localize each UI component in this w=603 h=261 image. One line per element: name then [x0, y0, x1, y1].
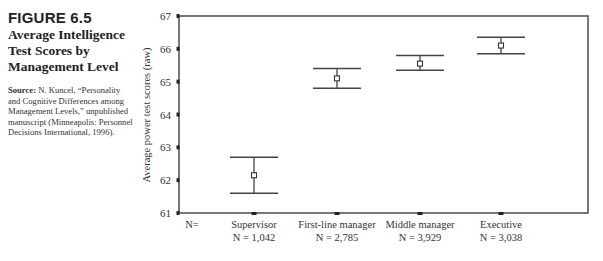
mean-marker — [418, 61, 423, 66]
x-tick-mark — [418, 212, 423, 215]
plot-border — [179, 16, 588, 213]
x-tick-mark — [499, 212, 504, 215]
error-bar-supervisor — [230, 157, 278, 193]
x-axis-labels: SupervisorN = 1,042First-line managerN =… — [231, 212, 522, 243]
plot-frame — [179, 16, 588, 213]
y-tick-label: 65 — [160, 76, 172, 88]
n-label: N= — [185, 219, 199, 230]
x-n-label: N = 1,042 — [233, 232, 275, 243]
x-n-label: N = 3,929 — [399, 232, 441, 243]
error-bar-executive — [477, 37, 525, 53]
y-axis-label: Average power test scores (raw) — [141, 47, 153, 183]
mean-marker — [499, 43, 504, 48]
y-tick-label: 62 — [160, 174, 171, 186]
y-tick-label: 66 — [160, 43, 172, 55]
x-category-label: Supervisor — [231, 219, 277, 230]
x-category-label: First-line manager — [298, 219, 376, 230]
y-tick-mark — [177, 211, 180, 215]
x-tick-mark — [335, 212, 340, 215]
x-category-label: Executive — [480, 219, 522, 230]
error-bar-first-line-manager — [313, 69, 361, 89]
x-category-label: Middle manager — [385, 219, 455, 230]
y-tick-label: 63 — [160, 141, 172, 153]
y-tick-mark — [177, 14, 180, 18]
x-tick-mark — [252, 212, 257, 215]
y-axis: 61626364656667 — [160, 10, 180, 219]
x-n-label: N = 2,785 — [316, 232, 358, 243]
y-tick-mark — [177, 113, 180, 117]
y-tick-mark — [177, 178, 180, 182]
error-bars — [230, 37, 525, 193]
y-tick-mark — [177, 145, 180, 149]
y-tick-label: 64 — [160, 109, 172, 121]
y-tick-mark — [177, 47, 180, 51]
y-tick-label: 61 — [160, 207, 171, 219]
y-tick-label: 67 — [160, 10, 172, 22]
error-bar-middle-manager — [396, 55, 444, 70]
y-tick-mark — [177, 80, 180, 84]
mean-marker — [335, 76, 340, 81]
x-n-label: N = 3,038 — [480, 232, 522, 243]
error-bar-chart: 61626364656667 Average power test scores… — [0, 0, 603, 261]
mean-marker — [252, 173, 257, 178]
